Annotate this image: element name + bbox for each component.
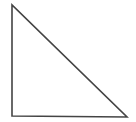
figure-canvas xyxy=(0,0,136,122)
canvas-background xyxy=(0,0,136,122)
right-triangle-svg xyxy=(0,0,136,122)
